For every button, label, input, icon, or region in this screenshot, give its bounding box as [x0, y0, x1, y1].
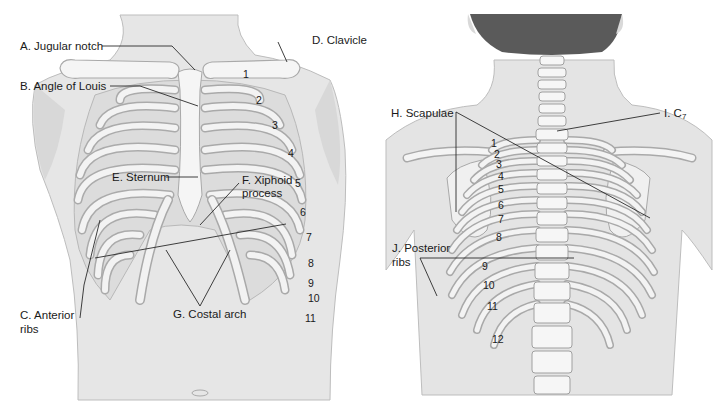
posterior-rib-number-4: 4 [498, 171, 504, 182]
posterior-rib-number-3: 3 [496, 159, 502, 170]
rib-number-9: 9 [308, 278, 314, 289]
rib-number-10: 10 [308, 293, 320, 304]
rib-number-8: 8 [308, 258, 314, 269]
posterior-rib-number-10: 10 [483, 280, 495, 291]
label-jugular-notch: A. Jugular notch [20, 40, 103, 53]
posterior-rib-number-9: 9 [482, 261, 488, 272]
posterior-rib-number-12: 12 [492, 334, 504, 345]
posterior-rib-number-7: 7 [498, 214, 504, 225]
rib-number-1: 1 [243, 69, 249, 80]
label-xiphoid-process-line2: process [242, 187, 282, 200]
rib-number-5: 5 [295, 178, 301, 189]
label-posterior-ribs-line2: ribs [392, 256, 411, 269]
rib-number-7: 7 [306, 232, 312, 243]
label-costal-arch: G. Costal arch [173, 308, 247, 321]
label-c7-subscript: 7 [682, 112, 686, 121]
rib-number-11: 11 [305, 313, 316, 324]
label-clavicle: D. Clavicle [312, 34, 367, 47]
label-posterior-ribs-line1: J. Posterior [392, 242, 450, 255]
label-angle-of-louis: B. Angle of Louis [20, 80, 106, 93]
label-c7: I. C7 [664, 107, 686, 123]
posterior-rib-number-5: 5 [498, 184, 504, 195]
rib-number-2: 2 [256, 95, 262, 106]
label-scapulae: H. Scapulae [391, 107, 454, 120]
posterior-rib-number-11: 11 [487, 301, 498, 312]
posterior-rib-number-6: 6 [498, 200, 504, 211]
anterior-thorax-illustration [0, 0, 360, 412]
label-anterior-ribs-line2: ribs [20, 323, 39, 336]
posterior-thorax-illustration [382, 0, 723, 412]
posterior-thorax-figure: H. Scapulae I. C7 J. Posterior ribs 1 2 … [382, 0, 723, 412]
anterior-thorax-figure: A. Jugular notch D. Clavicle B. Angle of… [0, 0, 360, 412]
rib-number-6: 6 [300, 207, 306, 218]
label-c7-prefix: I. C [664, 107, 682, 119]
label-anterior-ribs-line1: C. Anterior [20, 309, 74, 322]
rib-number-3: 3 [272, 120, 278, 131]
label-sternum: E. Sternum [112, 171, 170, 184]
rib-number-4: 4 [288, 148, 294, 159]
posterior-rib-number-8: 8 [496, 232, 502, 243]
label-xiphoid-process-line1: F. Xiphoid [242, 174, 293, 187]
